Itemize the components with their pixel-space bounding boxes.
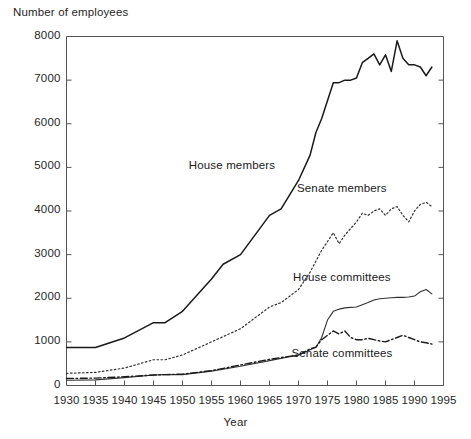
y-axis-tick-label: 8000 xyxy=(15,29,61,41)
series-label-senate-members: Senate members xyxy=(297,182,387,194)
series-label-house-members: House members xyxy=(189,159,275,171)
line-chart-plot xyxy=(0,0,471,439)
y-axis-tick-label: 1000 xyxy=(15,334,61,346)
x-axis-title: Year xyxy=(0,416,471,428)
series-label-senate-committees: Senate committees xyxy=(292,347,393,359)
y-axis-tick-label: 5000 xyxy=(15,159,61,171)
series-line-house-members xyxy=(67,41,432,348)
series-line-house-committees xyxy=(67,290,432,381)
chart-container: Number of employees Year 010002000300040… xyxy=(0,0,471,439)
plot-frame xyxy=(67,37,444,386)
series-label-house-committees: House committees xyxy=(293,271,391,283)
y-axis-tick-label: 4000 xyxy=(15,203,61,215)
y-axis-tick-label: 7000 xyxy=(15,72,61,84)
y-axis-tick-label: 6000 xyxy=(15,116,61,128)
y-axis-tick-label: 2000 xyxy=(15,290,61,302)
y-axis-title: Number of employees xyxy=(13,6,128,18)
y-axis-tick-label: 0 xyxy=(15,378,61,390)
x-axis-tick-label: 1995 xyxy=(424,394,464,406)
y-axis-tick-label: 3000 xyxy=(15,247,61,259)
